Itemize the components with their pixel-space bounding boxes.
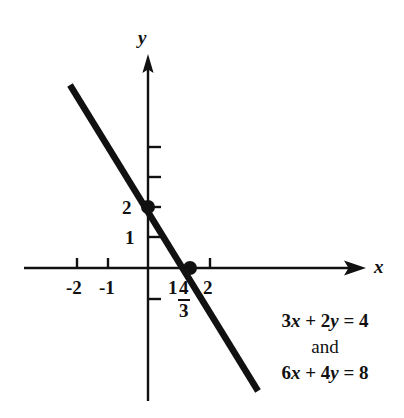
x-intercept-fraction: 4 3 xyxy=(178,278,190,321)
y-tick-label-2: 2 xyxy=(122,198,132,217)
point-x-intercept xyxy=(183,261,197,275)
equation-line-2: 6x + 4y = 8 xyxy=(252,360,398,386)
equation-annotation-block: 3x + 2y = 4 and 6x + 4y = 8 xyxy=(252,308,398,385)
x-tick-label-1: 1 xyxy=(168,278,178,297)
point-y-intercept xyxy=(141,200,155,214)
y-axis-label: y xyxy=(138,28,146,47)
plotted-line xyxy=(70,85,258,391)
fraction-numerator: 4 xyxy=(178,278,190,298)
graph-figure: y x 2 1 -2 -1 1 2 4 3 3x + 2y = 4 and 6x… xyxy=(0,0,404,418)
equation-conjunction: and xyxy=(252,334,398,360)
x-tick-label-minus-1: -1 xyxy=(99,278,115,297)
x-tick-label-minus-2: -2 xyxy=(66,278,82,297)
x-axis-label: x xyxy=(374,257,384,276)
x-tick-label-2: 2 xyxy=(203,278,213,297)
y-tick-label-1: 1 xyxy=(125,228,135,247)
fraction-denominator: 3 xyxy=(178,301,190,321)
equation-line-1: 3x + 2y = 4 xyxy=(252,308,398,334)
